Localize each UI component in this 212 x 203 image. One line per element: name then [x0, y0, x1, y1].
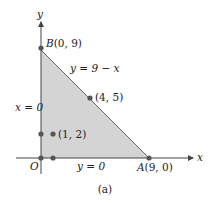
point-y-axis-2: [38, 131, 43, 136]
y-axis-label: y: [36, 8, 44, 20]
feasible-region-diagram: x y O B(0, 9) A(9, 0) (4, 5) (1, 2) y = …: [0, 0, 212, 203]
point-4-5: [87, 95, 92, 100]
origin-label: O: [30, 160, 39, 172]
point-x-axis-1: [50, 155, 55, 160]
label-A: A(9, 0): [136, 161, 173, 173]
label-B: B(0, 9): [45, 37, 82, 49]
x-axis-label: x: [197, 151, 203, 163]
label-4-5: (4, 5): [95, 91, 123, 103]
point-B: [38, 45, 43, 50]
point-A: [146, 155, 151, 160]
point-1-2: [50, 131, 55, 136]
label-line-hypotenuse: y = 9 − x: [69, 62, 120, 74]
label-1-2: (1, 2): [58, 128, 86, 140]
point-origin: [38, 155, 43, 160]
label-line-y0: y = 0: [76, 160, 105, 172]
label-line-x0: x = 0: [15, 101, 43, 113]
figure-caption: (a): [98, 183, 112, 195]
